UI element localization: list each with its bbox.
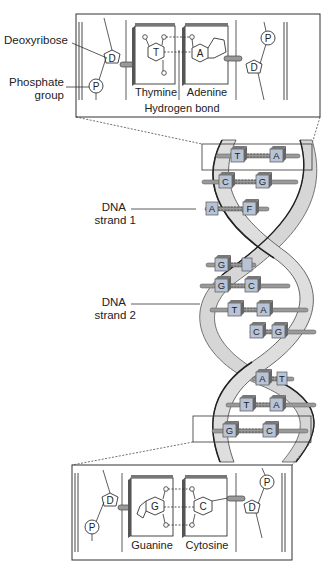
cytosine-label: Cytosine: [186, 539, 229, 551]
guanine-letter: G: [151, 501, 159, 512]
base-letter: A: [273, 399, 280, 410]
sugar-letter: D: [248, 502, 255, 513]
sugar-letter: D: [108, 53, 115, 64]
base-letter: C: [248, 280, 255, 291]
base-letter: A: [260, 304, 267, 315]
base-letter: F: [247, 203, 253, 214]
base-letter: A: [209, 203, 216, 214]
deoxyribose-label: Deoxyribose: [4, 34, 68, 46]
base-letter: C: [266, 425, 273, 436]
base-pair-row: G C: [212, 421, 308, 437]
diagram-canvas: D P T A D: [0, 0, 328, 577]
base-pair-row: T A: [210, 300, 308, 316]
strand2-label-line1: DNA: [102, 296, 127, 308]
hydrogen-bond-label: Hydrogen bond: [144, 102, 219, 114]
phosphate-label-line2: group: [35, 89, 64, 101]
base-letter: G: [226, 425, 233, 436]
strand2-label-line2: strand 2: [94, 309, 136, 321]
bottom-inset: D P G C D: [72, 465, 292, 560]
phosphate-letter: P: [264, 477, 271, 488]
base-letter: C: [253, 326, 260, 337]
strand1-label-line2: strand 1: [94, 214, 136, 226]
strand1-label-line1: DNA: [102, 201, 127, 213]
guanine-label: Guanine: [131, 539, 173, 551]
base-letter: T: [232, 304, 238, 315]
base-letter: T: [235, 150, 241, 161]
adenine-letter: A: [197, 48, 204, 59]
base-letter: C: [222, 176, 229, 187]
phosphate-letter: P: [89, 522, 96, 533]
base-letter: A: [273, 150, 280, 161]
top-inset: D P T A D: [76, 14, 320, 117]
phosphate-letter: P: [265, 33, 272, 44]
cytosine-letter: C: [199, 501, 206, 512]
base-letter: A: [259, 373, 266, 384]
base-letter: T: [244, 399, 250, 410]
base-letter: T: [279, 373, 285, 384]
base-letter: G: [218, 280, 225, 291]
phosphate-label-line1: Phosphate: [9, 76, 64, 88]
adenine-label: Adenine: [187, 86, 227, 98]
thymine-letter: T: [153, 47, 159, 58]
sugar-letter: D: [106, 495, 113, 506]
phosphate-letter: P: [93, 81, 100, 92]
base-letter: G: [218, 259, 225, 270]
base-letter: G: [259, 176, 266, 187]
thymine-label: Thymine: [135, 86, 177, 98]
sugar-letter: D: [250, 62, 257, 73]
dna-diagram: D P T A D: [0, 0, 328, 577]
base-letter: G: [275, 326, 282, 337]
